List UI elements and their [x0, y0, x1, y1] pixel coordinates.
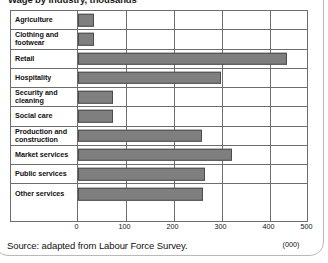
category-label: Agriculture [15, 11, 75, 29]
bar-public-services [78, 168, 206, 181]
category-label: Production and construction [15, 127, 75, 145]
chart-title: Wage by industry, thousands [8, 0, 137, 5]
bar-social-care [78, 110, 113, 123]
table-row: Agriculture [11, 11, 307, 30]
category-label: Market services [15, 146, 75, 164]
table-row: Market services [11, 146, 307, 165]
bar-production-and-construction [78, 129, 203, 142]
bar-hospitality [78, 72, 222, 85]
table-row: Security and cleaning [11, 88, 307, 107]
table-row: Other services [11, 184, 307, 203]
x-tick-100: 100 [119, 222, 131, 231]
table-row: Public services [11, 165, 307, 184]
bar-security-and-cleaning [78, 91, 113, 104]
category-label: Retail [15, 50, 75, 68]
chart-plot-area: Agriculture Clothing and footwear Retail… [10, 10, 308, 225]
category-label: Public services [15, 165, 75, 183]
table-row: Production and construction [11, 127, 307, 146]
category-label: Hospitality [15, 69, 75, 87]
bar-other-services [78, 188, 204, 201]
bar-retail [78, 52, 287, 65]
x-tick-400: 400 [263, 222, 275, 231]
chart-figure-page: Wage by industry, thousands Agriculture … [0, 0, 328, 263]
table-row: Retail [11, 50, 307, 69]
category-label: Social care [15, 107, 75, 125]
bar-clothing-and-footwear [78, 33, 94, 46]
category-label: Clothing and footwear [15, 30, 75, 48]
chart-grid-box: Agriculture Clothing and footwear Retail… [10, 10, 308, 222]
x-axis-tick-labels: 0 100 200 300 400 500 [10, 222, 308, 234]
bar-market-services [78, 149, 232, 162]
chart-rows: Agriculture Clothing and footwear Retail… [11, 11, 307, 221]
bar-agriculture [78, 14, 94, 27]
x-axis-unit-label: (000) [283, 240, 300, 249]
category-label: Other services [15, 184, 75, 203]
source-note: Source: adapted from Labour Force Survey… [7, 240, 188, 251]
table-row: Social care [11, 107, 307, 126]
category-label: Security and cleaning [15, 88, 75, 106]
x-tick-200: 200 [167, 222, 179, 231]
x-tick-500: 500 [301, 222, 313, 231]
x-tick-0: 0 [75, 222, 79, 231]
table-row: Hospitality [11, 69, 307, 88]
table-row: Clothing and footwear [11, 30, 307, 49]
x-tick-300: 300 [215, 222, 227, 231]
